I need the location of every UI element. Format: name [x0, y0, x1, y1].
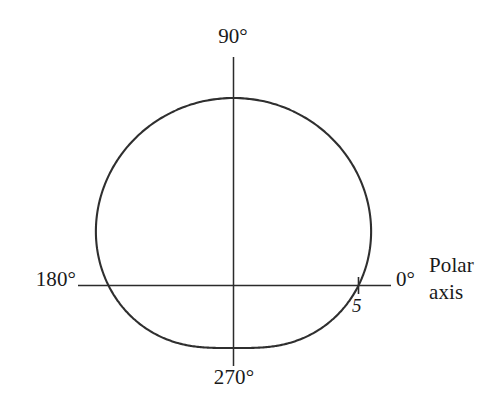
polar-axis-label: Polar axis: [429, 252, 474, 306]
angle-label-0: 0°: [396, 269, 415, 290]
angle-label-180: 180°: [8, 269, 76, 290]
polar-axis-label-line1: Polar: [429, 252, 474, 279]
angle-label-270: 270°: [196, 367, 272, 388]
angle-label-90: 90°: [200, 26, 266, 47]
polar-axis-label-line2: axis: [429, 279, 474, 306]
polar-chart-figure: 90° 180° 0° 270° 5 Polar axis: [0, 0, 498, 403]
polar-plot-svg: [0, 0, 498, 403]
radial-tick-label-5: 5: [352, 296, 362, 315]
